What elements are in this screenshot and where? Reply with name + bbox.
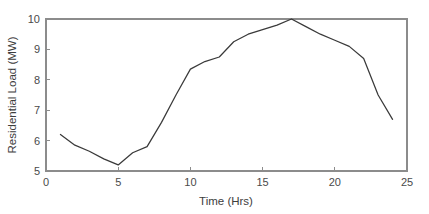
y-tick-label: 10	[28, 13, 40, 25]
y-tick-label: 9	[34, 43, 40, 55]
x-tick-label: 20	[329, 176, 341, 188]
y-tick-label: 8	[34, 74, 40, 86]
x-tick-label: 15	[256, 176, 268, 188]
y-tick-label: 6	[34, 135, 40, 147]
x-tick-label: 5	[115, 176, 121, 188]
x-axis-title: Time (Hrs)	[199, 195, 253, 207]
y-tick-label: 5	[34, 165, 40, 177]
chart-figure: 0510152025 5678910 Time (Hrs) Residentia…	[0, 0, 429, 214]
figure-background	[0, 0, 429, 214]
residential-load-line-chart: 0510152025 5678910 Time (Hrs) Residentia…	[0, 0, 429, 214]
x-tick-label: 25	[401, 176, 413, 188]
y-tick-label: 7	[34, 104, 40, 116]
x-tick-label: 10	[184, 176, 196, 188]
y-axis-title: Residential Load (MW)	[6, 36, 18, 153]
x-tick-label: 0	[43, 176, 49, 188]
